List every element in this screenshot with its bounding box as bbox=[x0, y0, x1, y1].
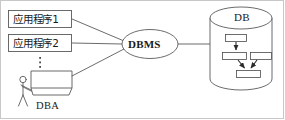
db-box-child-right bbox=[251, 53, 272, 60]
db-box-leaf bbox=[237, 71, 261, 78]
dba-stick-figure bbox=[19, 76, 32, 106]
dbms-label: DBMS bbox=[128, 39, 161, 50]
app1-label: 应用程序1 bbox=[13, 14, 59, 25]
diagram-canvas: 应用程序1 应用程序2 DBMS DB DBA bbox=[0, 0, 285, 120]
app2-label: 应用程序2 bbox=[13, 38, 59, 49]
db-label: DB bbox=[234, 12, 250, 23]
dba-terminal bbox=[31, 71, 72, 95]
dba-label: DBA bbox=[36, 101, 59, 112]
edge-app1-dbms bbox=[72, 19, 124, 41]
vertical-ellipsis-dots bbox=[39, 57, 41, 68]
db-box-child-left bbox=[223, 53, 247, 60]
edge-terminal-dbms bbox=[72, 49, 124, 76]
db-box-root bbox=[226, 35, 247, 42]
edge-app2-dbms bbox=[72, 43, 122, 44]
